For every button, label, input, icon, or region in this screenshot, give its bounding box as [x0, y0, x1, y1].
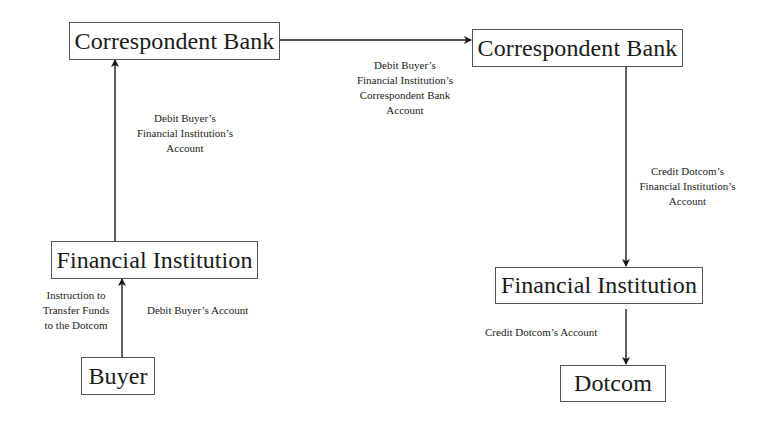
node-label: Dotcom — [574, 370, 652, 397]
node-financial-institution-left: Financial Institution — [51, 241, 258, 279]
node-label: Buyer — [88, 363, 147, 390]
edge-label-debit-fi-account: Debit Buyer’s Financial Institution’s Ac… — [125, 111, 245, 156]
node-label: Financial Institution — [56, 247, 252, 274]
node-dotcom: Dotcom — [560, 365, 666, 402]
node-label: Correspondent Bank — [478, 35, 678, 62]
edge-label-instruction-to-transfer: Instruction to Transfer Funds to the Dot… — [36, 288, 116, 333]
node-correspondent-bank-right: Correspondent Bank — [472, 29, 683, 67]
node-buyer: Buyer — [81, 357, 155, 395]
edge-label-credit-dotcom-fi-account: Credit Dotcom’s Financial Institution’s … — [630, 164, 745, 209]
node-label: Correspondent Bank — [75, 28, 275, 55]
node-correspondent-bank-left: Correspondent Bank — [69, 22, 280, 60]
node-financial-institution-right: Financial Institution — [495, 267, 703, 304]
edge-label-debit-buyer-account: Debit Buyer’s Account — [147, 303, 297, 318]
edge-label-credit-dotcom-account: Credit Dotcom’s Account — [485, 325, 625, 340]
node-label: Financial Institution — [501, 272, 697, 299]
edge-label-debit-correspondent-account: Debit Buyer’s Financial Institution’s Co… — [345, 58, 465, 118]
